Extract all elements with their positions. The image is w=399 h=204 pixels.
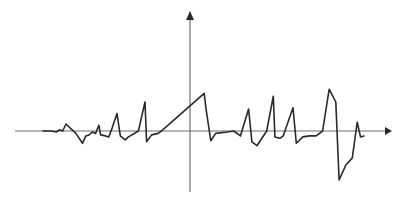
- x-axis-arrow-icon: [385, 127, 392, 135]
- signal-trace: [43, 89, 364, 180]
- waveform-diagram: [0, 0, 399, 204]
- y-axis-arrow-icon: [186, 11, 194, 20]
